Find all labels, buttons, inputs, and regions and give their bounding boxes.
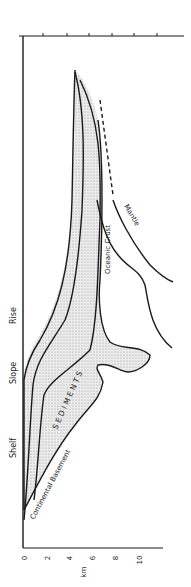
depth-axis: 0 2 4 6 8 10 km [21, 555, 144, 577]
tick-6: 6 [89, 555, 97, 560]
label-oceanic-crust: Oceanic Crust [104, 225, 112, 274]
axis-label-km: km [80, 566, 88, 577]
label-slope: Slope [9, 362, 18, 384]
tick-10: 10 [136, 556, 144, 565]
margin-diagram: Rise Slope Shelf S E D I M E N T S Conti… [0, 0, 191, 587]
label-rise: Rise [9, 307, 18, 324]
label-shelf: Shelf [9, 438, 18, 458]
tick-2: 2 [44, 556, 52, 560]
tick-8: 8 [112, 556, 120, 560]
label-mantle: Mantle [122, 203, 141, 228]
tick-0: 0 [21, 556, 29, 560]
mantle-line [113, 200, 173, 282]
tick-4: 4 [66, 555, 74, 560]
sediment-area [24, 70, 150, 510]
zone-labels: Rise Slope Shelf [9, 307, 18, 458]
